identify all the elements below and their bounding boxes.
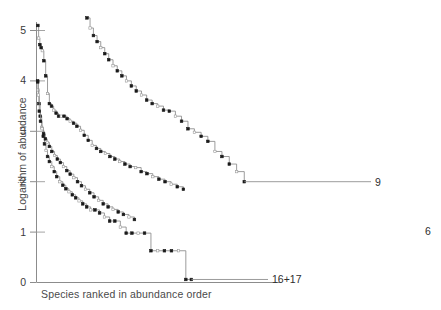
data-point-open	[73, 176, 75, 178]
data-point-open	[170, 183, 172, 185]
y-tick-label-1: 1	[12, 226, 26, 238]
data-point-open	[174, 115, 176, 117]
data-point-filled	[71, 194, 74, 197]
data-point-filled	[107, 206, 110, 209]
data-point-filled	[95, 147, 98, 150]
data-point-filled	[66, 117, 69, 120]
data-point-filled	[130, 85, 133, 88]
data-point-filled	[207, 140, 210, 143]
data-point-filled	[44, 75, 47, 78]
data-point-filled	[48, 102, 51, 105]
data-point-filled	[40, 46, 43, 49]
data-point-filled	[151, 102, 154, 105]
data-point-open	[137, 232, 139, 234]
data-point-filled	[36, 81, 39, 84]
data-point-filled	[162, 109, 165, 112]
data-point-filled	[57, 115, 60, 118]
data-point-filled	[109, 155, 112, 158]
data-point-open	[62, 165, 64, 167]
data-point-filled	[124, 163, 127, 166]
data-point-open	[97, 199, 99, 201]
data-point-filled	[94, 209, 97, 212]
data-point-filled	[145, 99, 148, 102]
data-point-open	[193, 131, 195, 133]
data-point-filled	[76, 180, 79, 183]
data-point-filled	[85, 206, 88, 209]
y-axis-ticks	[30, 31, 37, 283]
data-point-open	[68, 191, 70, 193]
data-point-filled	[200, 135, 203, 138]
data-point-filled	[56, 158, 59, 161]
data-point-open	[214, 150, 216, 152]
data-point-filled	[55, 175, 58, 178]
data-point-open	[112, 65, 114, 67]
data-point-filled	[116, 70, 119, 73]
data-point-filled	[163, 249, 166, 252]
data-point-filled	[63, 115, 66, 118]
data-point-filled	[59, 161, 62, 164]
data-point-open	[46, 92, 48, 94]
curve-end-label-6: 6	[425, 225, 431, 237]
data-point-open	[235, 170, 237, 172]
data-point-filled	[187, 127, 190, 130]
data-point-filled	[103, 52, 106, 55]
data-point-open	[41, 49, 43, 51]
data-point-filled	[125, 232, 128, 235]
data-point-filled	[107, 58, 110, 61]
series-line	[38, 25, 184, 189]
data-point-filled	[42, 135, 45, 138]
data-point-filled	[182, 188, 185, 191]
data-point-filled	[38, 110, 41, 113]
data-point-filled	[221, 155, 224, 158]
data-point-open	[52, 109, 54, 111]
data-point-open	[103, 216, 105, 218]
data-point-filled	[180, 120, 183, 123]
data-point-filled	[88, 191, 91, 194]
data-point-filled	[122, 213, 125, 216]
data-point-filled	[164, 180, 167, 183]
x-axis-title: Species ranked in abundance order	[41, 288, 212, 300]
data-point-filled	[98, 212, 101, 215]
data-point-open	[134, 166, 136, 168]
data-point-filled	[65, 187, 68, 190]
data-point-open	[104, 152, 106, 154]
rank-abundance-figure: 5 4 3 2 1 0 Species ranked in abundance …	[0, 0, 441, 310]
data-point-filled	[48, 160, 51, 163]
data-point-filled	[74, 197, 77, 200]
data-point-filled	[143, 232, 146, 235]
data-point-filled	[92, 34, 95, 37]
data-point-filled	[39, 120, 42, 123]
data-point-filled	[43, 59, 46, 62]
data-point-open	[156, 105, 158, 107]
data-series-layer	[36, 17, 245, 281]
curve-end-label-16-17: 16+17	[272, 273, 302, 285]
data-point-filled	[131, 232, 134, 235]
data-point-filled	[114, 158, 117, 161]
series-curve-c	[36, 81, 135, 221]
data-point-filled	[46, 155, 49, 158]
data-point-filled	[37, 24, 40, 27]
data-point-open	[89, 27, 91, 29]
data-point-filled	[114, 220, 117, 223]
data-point-open	[152, 175, 154, 177]
label-leader-lines	[191, 182, 371, 280]
chart-plot-area	[0, 0, 441, 310]
y-axis-title: Logarithm of abundance	[16, 94, 28, 214]
data-point-filled	[51, 150, 54, 153]
data-point-filled	[86, 17, 89, 20]
data-point-open	[112, 208, 114, 210]
data-point-filled	[44, 138, 47, 141]
data-point-filled	[39, 43, 42, 46]
data-point-open	[91, 144, 93, 146]
data-point-filled	[55, 112, 58, 115]
data-point-filled	[185, 278, 188, 281]
data-point-open	[119, 226, 121, 228]
data-point-filled	[133, 218, 136, 221]
data-point-open	[46, 141, 48, 143]
data-point-filled	[99, 150, 102, 153]
data-point-open	[84, 188, 86, 190]
data-point-open	[78, 200, 80, 202]
data-point-filled	[50, 105, 53, 108]
data-point-open	[119, 160, 121, 162]
data-point-open	[69, 120, 71, 122]
